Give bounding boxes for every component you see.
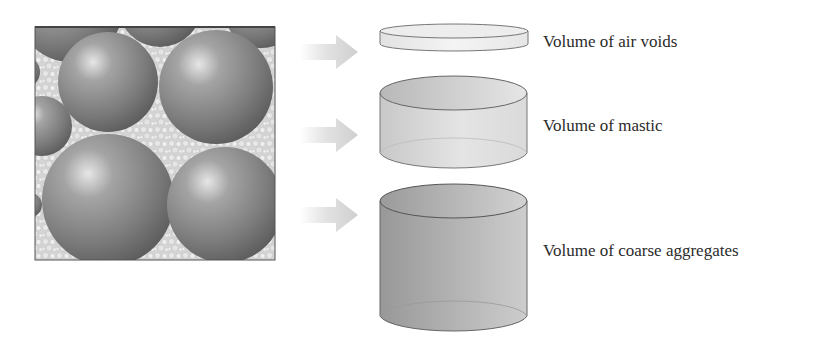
volumetric-diagram: Volume of air voids Volume of mastic Vol… bbox=[0, 0, 822, 352]
arrow-mastic-icon bbox=[300, 118, 358, 152]
arrow-coarse-aggregates-icon bbox=[300, 198, 358, 232]
cylinder-air-voids bbox=[380, 24, 528, 51]
arrow-air-voids-icon bbox=[300, 35, 358, 69]
diagram-graphics bbox=[0, 0, 822, 352]
cylinder-coarse-aggregates bbox=[380, 184, 527, 331]
label-mastic: Volume of mastic bbox=[543, 116, 663, 136]
label-air-voids: Volume of air voids bbox=[543, 32, 677, 52]
cylinder-mastic bbox=[380, 76, 527, 168]
mixture-panel bbox=[8, 0, 300, 266]
label-coarse-aggregates: Volume of coarse aggregates bbox=[543, 241, 739, 261]
